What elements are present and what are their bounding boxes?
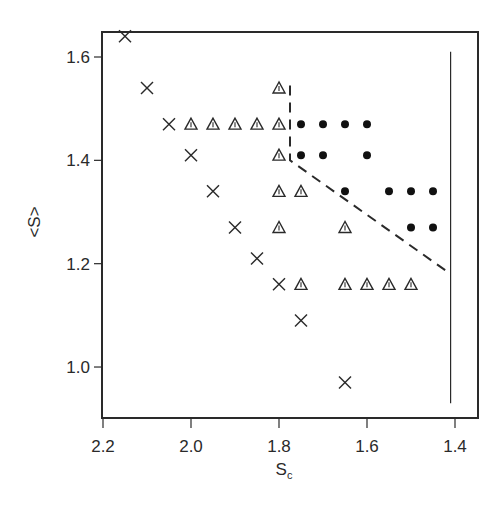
triangle-marker [339,222,351,233]
triangle-marker [251,118,263,129]
y-tick-label: 1.4 [66,151,90,170]
x-tick-label: 2.0 [179,437,203,456]
y-axis: 1.01.21.41.6 [66,48,102,377]
dot-marker [363,151,371,159]
x-tick-label: 2.2 [91,437,115,456]
triangle-marker [185,118,197,129]
cross-marker [295,315,307,327]
cross-marker [339,377,351,389]
triangle-marker [273,118,285,129]
x-tick-label: 1.8 [267,437,291,456]
triangle-marker [273,185,285,196]
x-tick-label: 1.4 [443,437,467,456]
triangle-marker [207,118,219,129]
dot-marker [341,120,349,128]
triangle-marker [295,278,307,289]
dot-marker [407,224,415,232]
dot-marker [429,187,437,195]
cross-marker [273,278,285,290]
triangle-marker [383,278,395,289]
triangle-marker [273,149,285,160]
cross-marker [141,82,153,94]
data-markers [119,30,437,388]
triangle-marker [405,278,417,289]
boundary-lines [290,52,451,403]
cross-marker [251,253,263,265]
dot-marker [341,187,349,195]
cross-marker [229,222,241,234]
cross-marker [185,149,197,161]
cross-marker [163,118,175,130]
y-tick-label: 1.6 [66,48,90,67]
triangle-marker [229,118,241,129]
y-axis-label: <S> [25,206,44,237]
triangle-marker [361,278,373,289]
dot-marker [297,151,305,159]
triangle-marker [339,278,351,289]
dot-marker [385,187,393,195]
dot-marker [363,120,371,128]
x-tick-label: 1.6 [355,437,379,456]
triangle-marker [273,82,285,93]
dot-marker [297,120,305,128]
x-axis: 2.22.01.81.61.4 [91,418,467,456]
cross-marker [207,185,219,197]
dot-marker [319,151,327,159]
dot-marker [407,187,415,195]
x-axis-label: Sc [276,460,293,481]
triangle-marker [273,222,285,233]
chart: 1.01.21.41.6 2.22.01.81.61.4 <S> Sc [0,0,502,509]
triangle-marker [295,185,307,196]
dot-marker [319,120,327,128]
dot-marker [429,224,437,232]
y-tick-label: 1.2 [66,255,90,274]
y-tick-label: 1.0 [66,358,90,377]
dashed-boundary-line [290,85,451,274]
